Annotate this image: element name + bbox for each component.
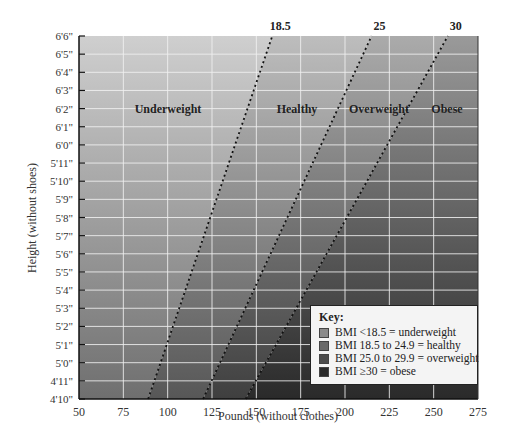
y-tick-label: 5'5" [56, 266, 73, 278]
y-tick-label: 5'10" [50, 175, 73, 187]
x-tick-label: 200 [336, 405, 354, 419]
y-tick-label: 4'11" [50, 375, 73, 387]
y-tick-label: 6'1" [56, 121, 73, 133]
x-tick-label: 250 [425, 405, 443, 419]
y-tick-label: 5'9" [56, 193, 73, 205]
y-tick-label: 5'3" [56, 302, 73, 314]
y-tick-label: 5'8" [56, 212, 73, 224]
y-tick-label: 5'4" [56, 284, 73, 296]
legend-title: Key: [319, 310, 469, 325]
y-tick-label: 5'6" [56, 248, 73, 260]
x-tick-label: 100 [159, 405, 177, 419]
zone-label: Obese [431, 102, 463, 116]
x-tick-label: 225 [380, 405, 398, 419]
y-tick-label: 5'2" [56, 320, 73, 332]
y-tick-label: 4'10" [50, 393, 73, 405]
y-tick-label: 6'5" [56, 48, 73, 60]
legend-item-underweight: BMI <18.5 = underweight [319, 326, 469, 339]
x-axis-label: Pounds (without clothes) [218, 409, 338, 423]
swatch-icon [319, 341, 329, 351]
zone-label: Underweight [135, 102, 202, 116]
y-tick-label: 5'11" [50, 157, 73, 169]
legend-item-overweight: BMI 25.0 to 29.9 = overweight [319, 352, 469, 365]
y-axis-label: Height (without shoes) [25, 163, 39, 273]
y-tick-label: 6'6" [56, 30, 73, 42]
legend-item-healthy: BMI 18.5 to 24.9 = healthy [319, 339, 469, 352]
y-tick-label: 5'1" [56, 339, 73, 351]
zone-label: Overweight [349, 102, 409, 116]
x-tick-label: 75 [117, 405, 129, 419]
bmi-line-label: 18.5 [270, 19, 291, 33]
bmi-line-label: 25 [374, 19, 386, 33]
y-tick-label: 6'4" [56, 66, 73, 78]
bmi-line-label: 30 [450, 19, 462, 33]
y-tick-label: 5'7" [56, 230, 73, 242]
swatch-icon [319, 328, 329, 338]
legend-item-obese: BMI ≥30 = obese [319, 365, 469, 378]
swatch-icon [319, 354, 329, 364]
swatch-icon [319, 367, 329, 377]
y-tick-label: 6'3" [56, 84, 73, 96]
y-tick-label: 5'0" [56, 357, 73, 369]
y-tick-label: 6'2" [56, 103, 73, 115]
zone-label: Healthy [277, 102, 318, 116]
y-tick-label: 6'0" [56, 139, 73, 151]
legend-key: Key: BMI <18.5 = underweight BMI 18.5 to… [310, 305, 478, 385]
x-tick-label: 275 [469, 405, 487, 419]
x-tick-label: 50 [73, 405, 85, 419]
